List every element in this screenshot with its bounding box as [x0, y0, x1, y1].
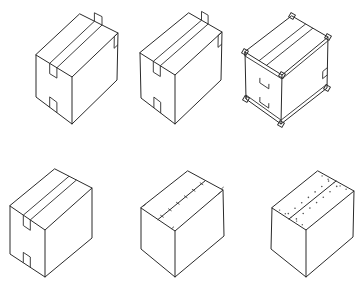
box-6 [271, 171, 354, 277]
box-5 [141, 171, 224, 277]
carton-closure-illustration [0, 0, 363, 284]
illustration-svg [0, 0, 363, 284]
box-2 [140, 11, 222, 124]
box-3 [242, 13, 332, 128]
box-1 [36, 13, 118, 124]
box-4 [10, 169, 92, 277]
